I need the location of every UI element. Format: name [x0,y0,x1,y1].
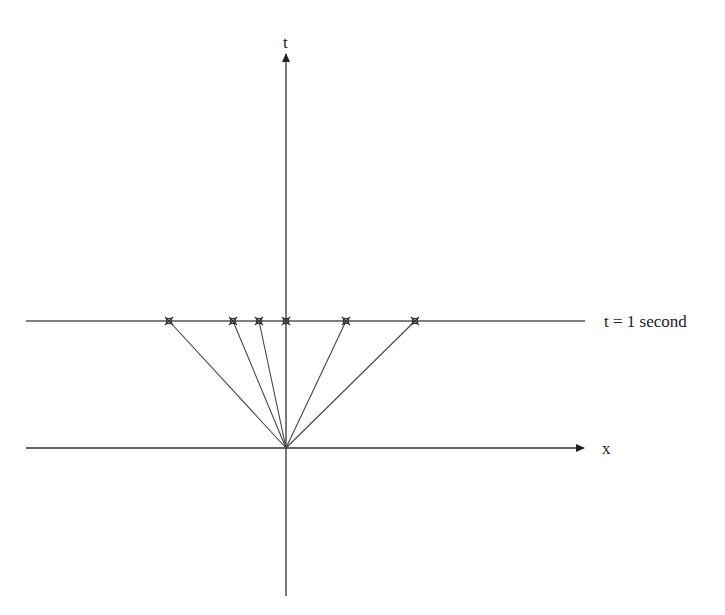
event-marker-icon [165,317,173,325]
ray [169,321,286,448]
event-marker-icon [411,317,419,325]
ray [233,321,286,448]
event-marker-icon [282,317,290,325]
event-marker-icon [229,317,237,325]
ray [286,321,346,448]
t-equals-1-label: t = 1 second [604,312,687,331]
ray [259,321,286,448]
x-axis-label: x [602,439,611,458]
spacetime-diagram: t x t = 1 second [0,0,725,615]
event-marker-icon [255,317,263,325]
event-marker-icon [342,317,350,325]
t-axis-label: t [283,33,288,52]
ray [286,321,415,448]
rays [169,321,415,448]
